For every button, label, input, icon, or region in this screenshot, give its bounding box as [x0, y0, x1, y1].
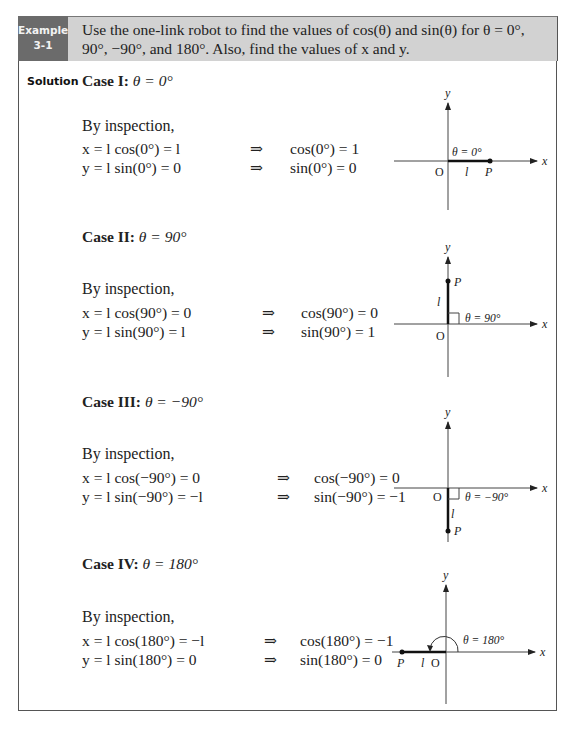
svg-text:x: x	[541, 481, 548, 495]
svg-text:θ = 90°: θ = 90°	[465, 312, 501, 324]
example-label-word: Example	[18, 23, 68, 38]
svg-text:O: O	[431, 656, 440, 670]
case-3-eq-x: x = l cos(−90°) = 0⇒cos(−90°) = 0	[82, 469, 200, 487]
case-3-diagram: y x O l P θ = −90°	[385, 400, 555, 550]
case-2-eq-y: y = l sin(90°) = l⇒sin(90°) = 1	[82, 323, 185, 341]
example-label-number: 3-1	[18, 38, 68, 53]
case-4-eq-x: x = l cos(180°) = −l⇒cos(180°) = −1	[82, 632, 204, 650]
case-3-eq-y: y = l sin(−90°) = −l⇒sin(−90°) = −1	[82, 488, 203, 506]
svg-text:O: O	[436, 329, 445, 343]
case-2-diagram: y x O l P θ = 90°	[385, 235, 555, 385]
case-1-inspection: By inspection,	[82, 117, 174, 135]
case-4-title: Case IV: θ = 180°	[82, 555, 198, 573]
svg-text:P: P	[396, 656, 405, 670]
svg-text:y: y	[444, 240, 451, 254]
case-3-inspection: By inspection,	[82, 445, 174, 463]
svg-text:l: l	[465, 165, 469, 179]
case-2-title: Case II: θ = 90°	[82, 228, 186, 246]
case-2-inspection: By inspection,	[82, 280, 174, 298]
svg-text:y: y	[442, 568, 449, 582]
svg-text:O: O	[435, 165, 444, 179]
svg-text:y: y	[444, 405, 451, 419]
case-4-eq-y: y = l sin(180°) = 0⇒sin(180°) = 0	[82, 651, 197, 669]
svg-text:l: l	[451, 507, 455, 521]
case-1-title: Case I: θ = 0°	[82, 72, 173, 90]
svg-text:l: l	[437, 295, 441, 309]
case-1-diagram: y x O l P θ = 0°	[385, 85, 555, 215]
case-4-diagram: y x O l P θ = 180°	[385, 565, 555, 715]
svg-text:θ = 0°: θ = 0°	[452, 146, 482, 158]
case-1-eq-y: y = l sin(0°) = 0⇒sin(0°) = 0	[82, 159, 181, 177]
svg-text:x: x	[541, 317, 548, 331]
svg-text:x: x	[541, 154, 548, 168]
svg-text:l: l	[421, 656, 425, 670]
case-1-eq-x: x = l cos(0°) = l⇒cos(0°) = 1	[82, 140, 180, 158]
svg-text:P: P	[484, 165, 493, 179]
example-prompt: Use the one-link robot to find the value…	[82, 20, 552, 58]
solution-label: Solution	[27, 75, 79, 88]
case-2-eq-x: x = l cos(90°) = 0⇒cos(90°) = 0	[82, 304, 191, 322]
svg-text:x: x	[539, 645, 546, 659]
case-4-inspection: By inspection,	[82, 608, 174, 626]
svg-text:θ = 180°: θ = 180°	[463, 634, 504, 646]
svg-text:P: P	[453, 275, 462, 289]
example-label: Example 3-1	[18, 16, 68, 61]
svg-text:O: O	[433, 490, 442, 504]
svg-text:θ = −90°: θ = −90°	[465, 491, 508, 503]
svg-text:y: y	[444, 86, 451, 100]
svg-text:P: P	[453, 524, 462, 538]
case-3-title: Case III: θ = −90°	[82, 393, 203, 411]
